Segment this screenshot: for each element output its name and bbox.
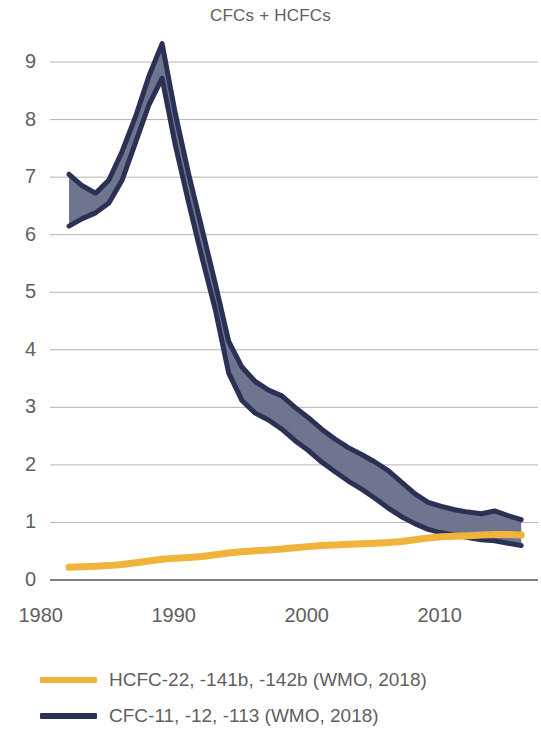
plot-area [0,0,541,640]
cfc-lower-bound [69,78,521,545]
hcfc-line [69,535,521,568]
chart-figure: CFCs + HCFCs 0123456789 1980199020002010… [0,0,541,749]
cfc-band-series [69,44,521,546]
y-tick-label: 3 [6,396,36,416]
gridlines [50,62,538,522]
x-tick-label: 1980 [6,605,76,625]
y-tick-label: 7 [6,166,36,186]
y-tick-label: 5 [6,281,36,301]
y-tick-label: 0 [6,569,36,589]
y-tick-label: 4 [6,339,36,359]
y-tick-label: 2 [6,454,36,474]
legend-item-cfc[interactable]: CFC-11, -12, -113 (WMO, 2018) [40,698,540,734]
legend-item-hcfc[interactable]: HCFC-22, -141b, -142b (WMO, 2018) [40,662,540,698]
x-tick-label: 2010 [405,605,475,625]
chart-legend: HCFC-22, -141b, -142b (WMO, 2018) CFC-11… [40,662,540,734]
legend-swatch-cfc [40,713,97,719]
y-tick-label: 8 [6,109,36,129]
x-tick-label: 1990 [139,605,209,625]
y-tick-label: 9 [6,51,36,71]
x-tick-label: 2000 [272,605,342,625]
y-tick-label: 1 [6,511,36,531]
hcfc-line-series [69,535,521,568]
y-tick-label: 6 [6,224,36,244]
legend-label-hcfc: HCFC-22, -141b, -142b (WMO, 2018) [109,669,427,691]
legend-label-cfc: CFC-11, -12, -113 (WMO, 2018) [109,705,379,727]
legend-swatch-hcfc [40,677,97,683]
cfc-upper-bound [69,44,521,520]
